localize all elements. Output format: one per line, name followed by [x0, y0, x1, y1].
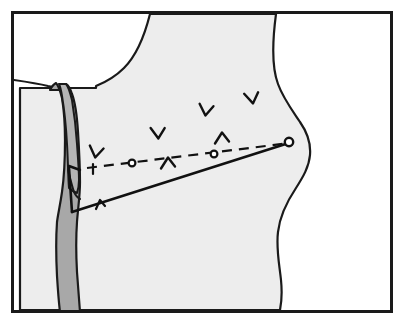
pointer-circle-left — [129, 160, 136, 167]
pointer-circle-right — [285, 138, 293, 146]
illustration-canvas: Lateral body profile surgical approach i… — [0, 0, 408, 326]
pointer-circle-mid — [211, 151, 218, 158]
anatomical-figure — [0, 0, 408, 326]
